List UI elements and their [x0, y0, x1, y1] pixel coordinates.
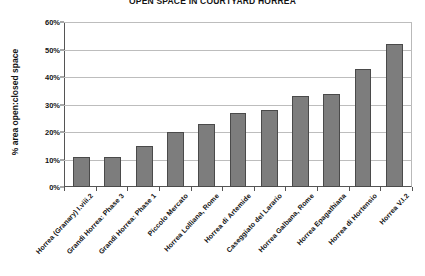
x-axis-tick-mark	[317, 187, 318, 191]
bar	[292, 96, 309, 187]
y-axis-title: % area open:closed space	[8, 16, 22, 188]
bar	[198, 124, 215, 187]
bar-slot	[160, 22, 191, 187]
bar-series	[64, 22, 412, 187]
x-axis-tick-mark	[191, 187, 192, 191]
x-axis-labels: Horrea (Granary) I.viii.2Grandi Horrea: …	[64, 192, 412, 276]
bar	[73, 157, 90, 187]
bar-slot	[379, 22, 410, 187]
x-axis-label: Horrea Lolliana, Rome	[163, 192, 220, 253]
x-axis-tick-mark	[222, 187, 223, 191]
chart-title: OPEN SPACE IN COURTYARD HORREA	[0, 0, 425, 6]
bar-chart: OPEN SPACE IN COURTYARD HORREA % area op…	[0, 0, 425, 276]
plot-area-wrapper: 0%10%20%30%40%50%60%	[64, 22, 412, 187]
x-axis-label: Caseggiato del Larario	[226, 192, 284, 254]
x-axis-tick-mark	[127, 187, 128, 191]
bar	[355, 69, 372, 187]
bar-slot	[285, 22, 316, 187]
bar-slot	[66, 22, 97, 187]
x-axis-label: Horrea V.I.2	[378, 192, 410, 226]
y-axis-title-text: % area open:closed space	[10, 49, 20, 155]
bar-slot	[129, 22, 160, 187]
bar	[230, 113, 247, 187]
x-axis-label: Grandi Horrea: Phase 3	[66, 192, 126, 255]
x-axis-tick-mark	[159, 187, 160, 191]
x-axis-tick-mark	[96, 187, 97, 191]
x-axis-tick-mark	[254, 187, 255, 191]
bar-slot	[254, 22, 285, 187]
x-axis-tick-mark	[380, 187, 381, 191]
bar	[104, 157, 121, 187]
bar-slot	[191, 22, 222, 187]
bar-slot	[97, 22, 128, 187]
x-axis-label: Grandi Horrea: Phase 1	[97, 192, 157, 255]
x-axis-tick-mark	[349, 187, 350, 191]
x-axis-tick-mark	[412, 187, 413, 191]
x-axis-tick-mark	[285, 187, 286, 191]
bar	[323, 94, 340, 188]
bar	[261, 110, 278, 187]
x-axis-label: Horrea (Granary) I.viii.2	[34, 192, 94, 255]
x-axis-ticks	[64, 187, 412, 191]
x-axis-label: Horrea Galbana, Rome	[257, 192, 315, 253]
bar	[386, 44, 403, 187]
bar-slot	[222, 22, 253, 187]
bar-slot	[347, 22, 378, 187]
bar	[167, 132, 184, 187]
bar-slot	[316, 22, 347, 187]
bar	[136, 146, 153, 187]
x-axis-tick-mark	[64, 187, 65, 191]
